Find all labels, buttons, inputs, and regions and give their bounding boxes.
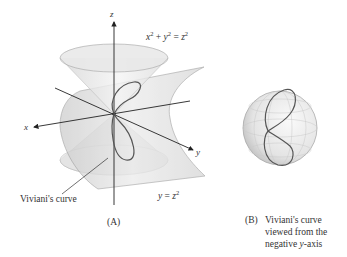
caption-b: (B) Viviani's curve viewed from the nega… bbox=[245, 214, 258, 226]
cone-equation: x2 + y2 = z2 bbox=[145, 30, 188, 42]
cylinder-equation: y = z2 bbox=[157, 189, 179, 201]
caption-b-line-1: Viviani's curve bbox=[265, 214, 322, 226]
x-axis-label: x bbox=[23, 122, 28, 132]
caption-b-line-3: negative y-axis bbox=[265, 238, 322, 250]
caption-b-line-2: viewed from the bbox=[265, 226, 327, 238]
y-axis-label: y bbox=[195, 147, 200, 157]
caption-b-tag: (B) bbox=[245, 215, 258, 225]
caption-a: (A) bbox=[107, 217, 120, 228]
z-axis-label: z bbox=[109, 9, 114, 19]
figure-a: z x y x2 + y2 = z2 y = z2 Viviani's curv… bbox=[20, 9, 205, 228]
figure-b bbox=[243, 89, 317, 165]
curve-label: Viviani's curve bbox=[20, 194, 77, 204]
